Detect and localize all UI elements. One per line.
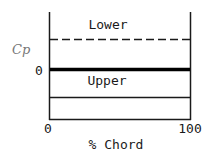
x-axis-label: % Chord: [89, 137, 144, 152]
y-axis-label: Cp: [12, 42, 31, 57]
y-zero-tick: 0: [35, 63, 43, 78]
x-end-tick: 100: [178, 121, 201, 136]
lower-label: Lower: [88, 17, 127, 32]
x-start-tick: 0: [44, 121, 52, 136]
upper-label: Upper: [87, 73, 126, 88]
cp-chord-diagram: Lower Upper Cp 0 0 100 % Chord: [0, 0, 211, 155]
